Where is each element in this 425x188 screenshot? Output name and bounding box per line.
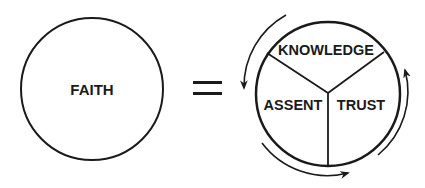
segment-label-knowledge: KNOWLEDGE [278, 42, 374, 58]
arrow-bottom-icon [262, 143, 348, 176]
divider-upper-left [267, 53, 328, 93]
faith-label: FAITH [70, 81, 113, 98]
divider-upper-right [328, 52, 384, 93]
segment-label-trust: TRUST [337, 97, 385, 113]
equals-sign [193, 81, 222, 95]
faith-circle: FAITH [21, 18, 163, 160]
faith-diagram: FAITH KNOWLEDGE ASSENT TRUST [0, 0, 425, 188]
cycle-arrows [244, 15, 408, 176]
components-circle: KNOWLEDGE ASSENT TRUST [256, 22, 400, 166]
segment-label-assent: ASSENT [264, 97, 323, 113]
